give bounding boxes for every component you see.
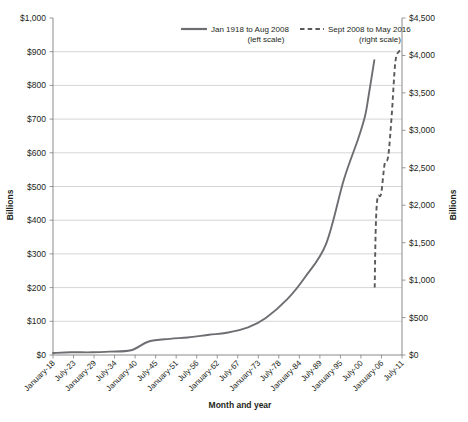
y-axis-right-tick-label: $1,500 [409,238,435,248]
y-axis-left-tick-label: $100 [27,316,46,326]
y-axis-right-tick-label: $2,000 [409,200,435,210]
series-line-right-scale [375,51,402,288]
y-axis-right-tick-label: $1,000 [409,275,435,285]
y-axis-right-tick-label: $3,000 [409,125,435,135]
y-axis-right-tick-label: $4,500 [409,13,435,23]
y-axis-right-tick-label: $4,000 [409,50,435,60]
y-axis-left-tick-label: $400 [27,215,46,225]
y-axis-left-tick-label: $900 [27,47,46,57]
y-axis-left-tick-label: $600 [27,148,46,158]
y-axis-right-tick-label: $2,500 [409,163,435,173]
y-axis-right-tick-label: $500 [409,313,428,323]
y-axis-left-title: Billions [5,189,15,220]
y-axis-left-tick-label: $0 [37,350,47,360]
legend-entry-1-line1: Sept 2008 to May 2016 [328,25,411,34]
chart-svg: $1,000$900$800$700$600$500$400$300$200$1… [0,0,468,422]
y-axis-right-tick-label: $3,500 [409,88,435,98]
y-axis-right-title: Billions [448,189,458,220]
x-axis-tick-labels: January-18July-23January-29July-34Januar… [22,358,406,393]
x-axis-tick-label: July-11 [382,358,407,383]
y-axis-right-tick-label: $0 [409,350,419,360]
y-axis-left-tick-label: $300 [27,249,46,259]
y-axis-left-tick-label: $200 [27,283,46,293]
y-axis-left-tick-label: $500 [27,182,46,192]
legend-entry-0-line1: Jan 1918 to Aug 2008 [211,25,289,34]
y-axis-left-ticks [50,18,54,355]
y-axis-left-tick-labels: $1,000$900$800$700$600$500$400$300$200$1… [20,13,46,360]
y-axis-right-tick-labels: $4,500$4,000$3,500$3,000$2,500$2,000$1,5… [409,13,435,360]
series-line-left-scale [53,60,374,353]
x-axis-ticks [53,355,402,359]
x-axis-title: Month and year [209,400,273,410]
y-axis-left-tick-label: $800 [27,80,46,90]
chart-legend: Jan 1918 to Aug 2008 (left scale) Sept 2… [181,25,411,44]
y-axis-left-tick-label: $1,000 [20,13,46,23]
y-axis-left-tick-label: $700 [27,114,46,124]
x-axis-tick-label: January-18 [22,358,57,393]
gridlines [53,52,402,322]
legend-entry-1-line2: (right scale) [359,35,401,44]
chart-container: $1,000$900$800$700$600$500$400$300$200$1… [0,0,468,422]
y-axis-right-ticks [402,18,406,355]
legend-entry-0-line2: (left scale) [248,35,285,44]
